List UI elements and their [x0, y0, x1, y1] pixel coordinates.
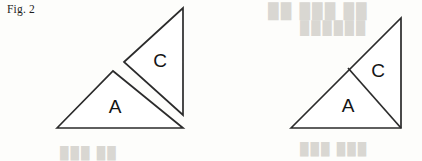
panel-assembled-view: A C — [291, 18, 401, 128]
piece-label-a-exploded: A — [109, 96, 122, 117]
piece-label-c-assembled: C — [371, 60, 385, 81]
figure-page: ██ ███ ██ ██████ ███ ███ ███ ██ Fig. 2 A… — [0, 0, 422, 161]
piece-label-c-exploded: C — [153, 50, 167, 71]
piece-label-a-assembled: A — [342, 95, 355, 116]
panel-exploded-view: A C — [57, 8, 183, 128]
diagram-canvas: A C A C — [0, 0, 422, 161]
